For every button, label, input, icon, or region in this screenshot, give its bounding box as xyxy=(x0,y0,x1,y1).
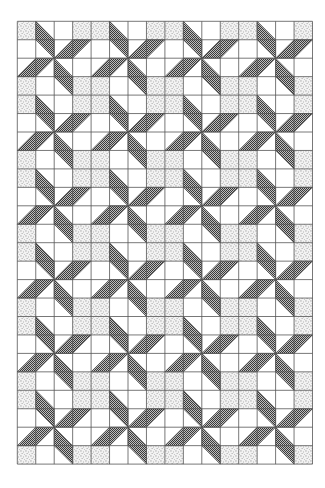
stippled-square xyxy=(220,224,238,242)
stippled-square xyxy=(165,317,183,335)
stippled-square xyxy=(91,21,109,39)
stippled-square xyxy=(239,95,257,113)
stippled-square xyxy=(220,21,238,39)
stippled-square xyxy=(294,372,312,390)
stippled-square xyxy=(91,372,109,390)
stippled-square xyxy=(165,446,183,464)
stippled-square xyxy=(239,317,257,335)
stippled-square xyxy=(91,150,109,168)
stippled-square xyxy=(91,243,109,261)
stippled-square xyxy=(239,446,257,464)
stippled-square xyxy=(73,21,91,39)
stippled-square xyxy=(17,390,35,408)
stippled-square xyxy=(146,150,164,168)
stippled-square xyxy=(91,298,109,316)
stippled-square xyxy=(294,317,312,335)
stippled-square xyxy=(239,298,257,316)
stippled-square xyxy=(294,95,312,113)
stippled-square xyxy=(294,446,312,464)
stippled-square xyxy=(73,224,91,242)
stippled-square xyxy=(91,224,109,242)
stippled-square xyxy=(165,169,183,187)
stippled-square xyxy=(220,372,238,390)
stippled-square xyxy=(239,21,257,39)
stippled-square xyxy=(17,317,35,335)
stippled-square xyxy=(294,21,312,39)
stippled-square xyxy=(146,317,164,335)
stippled-square xyxy=(294,243,312,261)
stippled-square xyxy=(220,317,238,335)
stippled-square xyxy=(220,169,238,187)
stippled-square xyxy=(294,224,312,242)
stippled-square xyxy=(165,390,183,408)
stippled-square xyxy=(146,372,164,390)
quilt-pattern xyxy=(0,0,325,488)
stippled-square xyxy=(73,317,91,335)
stippled-square xyxy=(165,150,183,168)
stippled-square xyxy=(17,21,35,39)
stippled-square xyxy=(294,390,312,408)
stippled-square xyxy=(220,298,238,316)
stippled-square xyxy=(220,150,238,168)
stippled-square xyxy=(165,95,183,113)
stippled-square xyxy=(73,372,91,390)
stippled-square xyxy=(17,224,35,242)
stippled-square xyxy=(146,390,164,408)
stippled-square xyxy=(73,298,91,316)
stippled-square xyxy=(73,150,91,168)
stippled-square xyxy=(146,95,164,113)
stippled-square xyxy=(220,446,238,464)
stippled-square xyxy=(146,243,164,261)
stippled-square xyxy=(73,390,91,408)
stippled-square xyxy=(220,95,238,113)
stippled-square xyxy=(294,169,312,187)
stippled-square xyxy=(239,224,257,242)
stippled-square xyxy=(17,243,35,261)
stippled-square xyxy=(165,224,183,242)
stippled-square xyxy=(91,169,109,187)
stippled-square xyxy=(239,169,257,187)
stippled-square xyxy=(91,77,109,95)
stippled-square xyxy=(294,77,312,95)
stippled-square xyxy=(17,77,35,95)
stippled-square xyxy=(220,243,238,261)
stippled-square xyxy=(239,243,257,261)
stippled-square xyxy=(17,298,35,316)
stippled-square xyxy=(73,446,91,464)
stippled-square xyxy=(146,298,164,316)
stippled-square xyxy=(146,169,164,187)
stippled-square xyxy=(91,317,109,335)
stippled-square xyxy=(165,243,183,261)
stippled-square xyxy=(165,372,183,390)
stippled-square xyxy=(146,446,164,464)
stippled-square xyxy=(91,446,109,464)
stippled-square xyxy=(165,77,183,95)
stippled-square xyxy=(17,150,35,168)
stippled-square xyxy=(17,169,35,187)
stippled-square xyxy=(220,77,238,95)
grid-lines xyxy=(17,21,312,464)
stippled-square xyxy=(146,224,164,242)
stippled-square xyxy=(239,372,257,390)
stippled-square xyxy=(17,446,35,464)
stippled-square xyxy=(17,95,35,113)
stippled-square xyxy=(73,77,91,95)
stippled-square xyxy=(146,77,164,95)
stippled-square xyxy=(294,298,312,316)
stippled-square xyxy=(146,21,164,39)
stippled-square xyxy=(73,169,91,187)
stippled-square xyxy=(220,390,238,408)
stippled-square xyxy=(294,150,312,168)
stippled-square xyxy=(73,95,91,113)
stippled-square xyxy=(239,150,257,168)
stippled-square xyxy=(165,21,183,39)
stippled-square xyxy=(73,243,91,261)
stippled-square xyxy=(239,77,257,95)
stippled-square xyxy=(239,390,257,408)
stippled-square xyxy=(165,298,183,316)
stippled-square xyxy=(91,95,109,113)
stippled-square xyxy=(17,372,35,390)
stippled-square xyxy=(91,390,109,408)
